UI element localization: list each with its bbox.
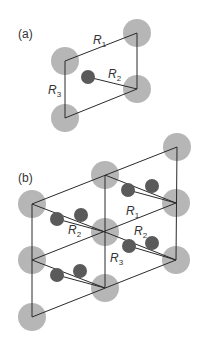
lattice-edge [32,260,105,288]
panel-b: (b) [18,133,191,331]
r3-label: R3 [48,83,62,99]
r3-label: R3 [110,251,124,267]
small-atom [81,70,95,84]
r2-label-right: R2 [134,224,148,240]
small-atom [121,183,135,197]
panel-b-label: (b) [18,171,33,185]
r2-label: R2 [108,67,122,83]
small-atom [145,179,159,193]
small-atom [50,212,64,226]
small-atom [74,208,88,222]
lattice-edge [176,147,177,260]
small-atom [73,264,87,278]
crystal-lattice-figure: (a) R1 R2 R3 (b) [0,0,202,350]
panel-a-label: (a) [18,27,33,41]
r1-label: R1 [93,33,107,49]
r1-label: R1 [126,204,140,220]
small-atom [122,239,136,253]
panel-a: (a) R1 R2 R3 [18,19,151,132]
lattice-edge [105,175,176,203]
small-atom [50,268,64,282]
